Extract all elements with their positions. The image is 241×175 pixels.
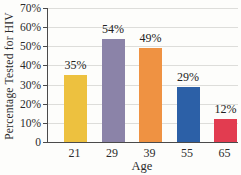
y-tick-mark — [43, 8, 47, 9]
y-tick-label: 50% — [7, 40, 41, 52]
x-tick-label: 65 — [219, 146, 231, 161]
y-tick-mark — [43, 85, 47, 86]
y-tick-label: 0 — [7, 136, 41, 148]
bar-value-label: 54% — [102, 22, 124, 37]
x-tick-label: 21 — [69, 146, 81, 161]
y-tick-label: 30% — [7, 79, 41, 91]
bar-chart-figure: Percentage Tested for HIV 35%54%49%29%12… — [0, 0, 241, 175]
y-tick-label: 10% — [7, 117, 41, 129]
gridline — [48, 27, 238, 28]
x-tick-label: 55 — [181, 146, 193, 161]
x-axis-label: Age — [132, 159, 153, 174]
gridline — [48, 46, 238, 47]
y-tick-mark — [43, 27, 47, 28]
bar-age-55 — [177, 87, 200, 143]
bar-value-label: 49% — [140, 31, 162, 46]
y-tick-mark — [43, 142, 47, 143]
gridline — [48, 8, 238, 9]
y-tick-label: 40% — [7, 59, 41, 71]
bar-age-39 — [139, 48, 162, 142]
bar-value-label: 29% — [177, 70, 199, 85]
y-tick-mark — [43, 46, 47, 47]
x-tick-label: 29 — [106, 146, 118, 161]
bar-age-29 — [102, 39, 125, 142]
y-tick-mark — [43, 65, 47, 66]
y-tick-mark — [43, 104, 47, 105]
bar-value-label: 12% — [215, 102, 237, 117]
plot-area: 35%54%49%29%12% — [47, 8, 238, 143]
bar-age-65 — [214, 119, 237, 142]
y-tick-label: 60% — [7, 21, 41, 33]
bar-age-21 — [64, 75, 87, 142]
y-tick-label: 70% — [7, 2, 41, 14]
y-tick-mark — [43, 123, 47, 124]
y-tick-label: 20% — [7, 98, 41, 110]
bar-value-label: 35% — [65, 58, 87, 73]
